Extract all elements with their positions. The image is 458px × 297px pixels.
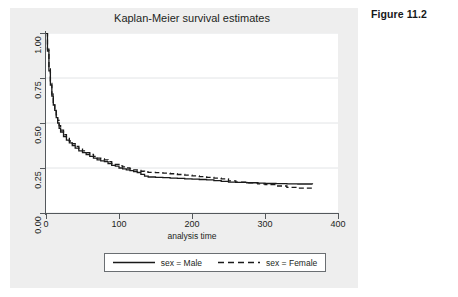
y-axis-tick-label-wrap: 1.00: [12, 27, 38, 39]
y-axis-tick-label-wrap: 0.25: [12, 162, 38, 174]
chart-legend: sex = Male sex = Female: [104, 253, 326, 272]
x-axis-tick-label: 100: [99, 219, 139, 229]
y-axis-tick-label: 0.25: [33, 167, 43, 193]
legend-label-male: sex = Male: [161, 258, 202, 268]
gridlines: [46, 33, 338, 213]
x-axis-tick-label: 0: [26, 219, 66, 229]
plot-area: [46, 33, 338, 213]
y-axis-tick-label-wrap: 0.75: [12, 72, 38, 84]
x-axis-tick-label: 300: [245, 219, 285, 229]
legend-label-female: sex = Female: [266, 258, 317, 268]
x-axis-tick-label: 200: [172, 219, 212, 229]
series-path-female: [46, 33, 312, 189]
series-layer: [46, 33, 312, 189]
legend-key-dashed-icon: [218, 259, 260, 266]
figure-caption: Figure 11.2: [371, 8, 427, 20]
y-axis-tick-label-wrap: 0.50: [12, 117, 38, 129]
y-axis-tick-label: 1.00: [33, 32, 43, 58]
page-background: Figure 11.2 Kaplan-Meier survival estima…: [0, 0, 458, 297]
y-axis-tick-label-wrap: 0.00: [12, 207, 38, 219]
y-axis-tick-label: 0.50: [33, 122, 43, 148]
series-path-male: [46, 33, 312, 184]
x-axis-tick-label: 400: [318, 219, 358, 229]
survival-curves-svg: [46, 33, 338, 213]
x-axis-title: analysis time: [46, 231, 338, 241]
legend-item-female: sex = Female: [218, 258, 317, 268]
legend-item-male: sex = Male: [113, 258, 202, 268]
chart-title: Kaplan-Meier survival estimates: [46, 12, 338, 24]
y-axis-line: [45, 31, 46, 215]
legend-key-solid-icon: [113, 259, 155, 266]
y-axis-tick-label: 0.75: [33, 77, 43, 103]
